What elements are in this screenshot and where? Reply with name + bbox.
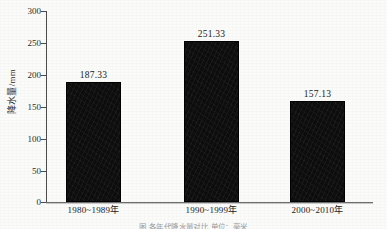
y-tick-label-250: 250 <box>28 39 42 48</box>
y-axis-label: 降水量/mm <box>5 57 18 127</box>
x-axis-label-2000-2010: 2000~2010年 <box>268 205 367 216</box>
x-axis-line-shadow <box>46 203 373 204</box>
y-tick-250 <box>41 43 46 44</box>
bar-chart: 降水量/mm 300 250 200 150 100 50 0 187.33 2… <box>0 0 387 229</box>
bar-1990-1999 <box>184 41 239 202</box>
y-tick-label-100: 100 <box>28 135 42 144</box>
bar-1980-1989 <box>66 82 121 202</box>
bar-value-2000-2010: 157.13 <box>285 89 350 99</box>
y-tick-200 <box>41 75 46 76</box>
y-axis-line <box>46 11 47 203</box>
bar-value-1990-1999: 251.33 <box>179 29 244 39</box>
y-tick-300 <box>41 11 46 12</box>
y-tick-50 <box>41 171 46 172</box>
y-tick-label-200: 200 <box>28 71 42 80</box>
y-tick-150 <box>41 107 46 108</box>
y-tick-label-50: 50 <box>32 167 41 176</box>
y-tick-label-300: 300 <box>28 7 42 16</box>
figure-caption: 图 各年代降水量对比 单位：毫米 <box>0 221 387 229</box>
bar-2000-2010 <box>290 101 345 202</box>
x-axis-label-1980-1989: 1980~1989年 <box>44 205 143 216</box>
bar-value-1980-1989: 187.33 <box>61 70 126 80</box>
y-tick-100 <box>41 139 46 140</box>
x-axis-label-1990-1999: 1990~1999年 <box>162 205 261 216</box>
y-tick-label-0: 0 <box>37 198 42 207</box>
y-tick-label-150: 150 <box>28 103 42 112</box>
